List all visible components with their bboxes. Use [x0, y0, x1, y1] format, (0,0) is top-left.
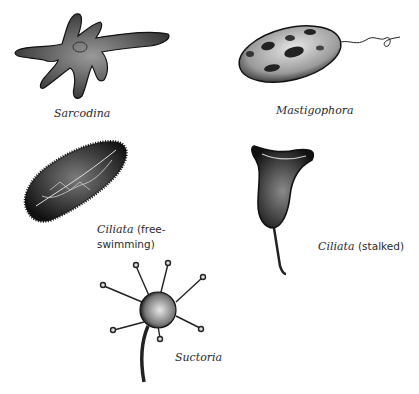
label-suctoria-name: Suctoria: [175, 351, 222, 364]
mastigophora-drawing: [233, 16, 400, 92]
label-mastigophora: Mastigophora: [276, 104, 354, 118]
label-sarcodina-name: Sarcodina: [54, 107, 110, 120]
sarcodina-drawing: [15, 14, 169, 99]
label-ciliata-free-qualifier-line2: swimming): [97, 238, 155, 250]
label-ciliata-free-swimming: Ciliata (free- swimming): [97, 222, 166, 252]
label-ciliata-stalked: Ciliata (stalked): [318, 239, 404, 254]
label-mastigophora-name: Mastigophora: [276, 104, 354, 117]
label-suctoria: Suctoria: [175, 351, 222, 365]
label-ciliata-free-qualifier: (free-: [137, 223, 166, 235]
label-ciliata-stalked-name: Ciliata: [318, 240, 355, 253]
label-sarcodina: Sarcodina: [54, 107, 110, 121]
label-ciliata-free-name: Ciliata: [97, 223, 134, 236]
ciliata-free-swimming-drawing: [25, 141, 127, 221]
protozoa-illustration: [0, 0, 419, 394]
label-ciliata-stalked-qualifier: (stalked): [358, 240, 404, 252]
ciliata-stalked-drawing: [252, 146, 314, 274]
